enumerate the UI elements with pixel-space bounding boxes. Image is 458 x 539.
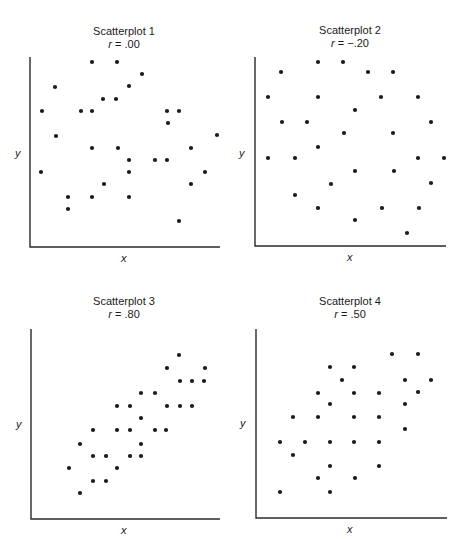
data-point xyxy=(352,391,356,395)
data-point xyxy=(190,379,194,383)
data-point xyxy=(278,490,282,494)
data-point xyxy=(203,170,207,174)
data-point xyxy=(316,95,320,99)
data-point xyxy=(352,440,356,444)
scatterplot-3 xyxy=(31,329,220,519)
data-point xyxy=(139,416,143,420)
data-point xyxy=(177,219,181,223)
data-point xyxy=(215,133,219,137)
data-point xyxy=(329,182,333,186)
axes xyxy=(256,329,447,518)
data-point xyxy=(366,70,370,74)
data-point xyxy=(165,109,169,113)
scatterplot-canvas xyxy=(0,0,458,539)
data-point xyxy=(316,145,320,149)
data-point xyxy=(429,181,433,185)
data-point xyxy=(128,454,132,458)
data-point xyxy=(115,466,119,470)
data-point xyxy=(340,378,344,382)
data-point xyxy=(352,415,356,419)
scatterplot-2-title: Scatterplot 2 xyxy=(250,24,450,37)
data-point xyxy=(139,442,143,446)
data-point xyxy=(140,72,144,76)
data-point xyxy=(153,391,157,395)
data-point xyxy=(291,453,295,457)
data-point xyxy=(177,109,181,113)
data-point xyxy=(403,402,407,406)
data-point xyxy=(66,195,70,199)
data-point xyxy=(442,156,446,160)
r-value: = .80 xyxy=(112,308,140,320)
r-value: = −.20 xyxy=(335,37,369,49)
data-point xyxy=(266,156,270,160)
data-point xyxy=(417,206,421,210)
data-point xyxy=(166,121,170,125)
data-point xyxy=(429,378,433,382)
data-point xyxy=(353,218,357,222)
r-value: = .50 xyxy=(338,308,366,320)
data-point xyxy=(190,404,194,408)
data-point xyxy=(377,440,381,444)
data-point xyxy=(391,70,395,74)
data-point xyxy=(90,109,94,113)
scatterplot-4-ylabel: y xyxy=(240,417,246,429)
scatterplot-3-xlabel: x xyxy=(121,524,127,536)
data-point xyxy=(293,193,297,197)
scatterplot-3-r: r = .80 xyxy=(24,308,224,321)
data-point xyxy=(316,391,320,395)
data-point xyxy=(379,95,383,99)
scatterplot-2-r: r = −.20 xyxy=(250,37,450,50)
data-point xyxy=(39,170,43,174)
data-point xyxy=(165,404,169,408)
data-point xyxy=(403,427,407,431)
data-point xyxy=(380,206,384,210)
data-point xyxy=(316,415,320,419)
data-point xyxy=(266,95,270,99)
data-point xyxy=(328,464,332,468)
data-point xyxy=(102,182,106,186)
data-point xyxy=(377,391,381,395)
data-point xyxy=(279,70,283,74)
data-point xyxy=(416,352,420,356)
data-point xyxy=(67,466,71,470)
data-point xyxy=(115,428,119,432)
data-point xyxy=(305,120,309,124)
data-point xyxy=(403,378,407,382)
data-point xyxy=(328,365,332,369)
data-point xyxy=(328,490,332,494)
data-point xyxy=(429,120,433,124)
data-point xyxy=(328,440,332,444)
scatterplot-4 xyxy=(256,329,447,518)
data-point xyxy=(293,156,297,160)
scatterplot-4-title: Scatterplot 4 xyxy=(250,295,450,308)
axes xyxy=(255,57,446,246)
scatterplot-4-r: r = .50 xyxy=(250,308,450,321)
data-point xyxy=(127,158,131,162)
data-point xyxy=(178,404,182,408)
data-point xyxy=(91,479,95,483)
scatterplot-2 xyxy=(255,57,446,246)
data-point xyxy=(164,428,168,432)
data-point xyxy=(416,156,420,160)
data-point xyxy=(90,60,94,64)
data-point xyxy=(416,390,420,394)
data-point xyxy=(127,84,131,88)
axes xyxy=(30,57,220,247)
data-point xyxy=(189,182,193,186)
scatterplot-3-title: Scatterplot 3 xyxy=(24,295,224,308)
data-point xyxy=(66,207,70,211)
data-point xyxy=(40,109,44,113)
data-point xyxy=(90,146,94,150)
data-point xyxy=(91,428,95,432)
data-point xyxy=(291,415,295,419)
data-point xyxy=(352,365,356,369)
data-point xyxy=(153,158,157,162)
scatterplot-2-xlabel: x xyxy=(347,251,353,263)
data-point xyxy=(202,379,206,383)
data-point xyxy=(280,120,284,124)
data-point xyxy=(377,464,381,468)
data-point xyxy=(278,440,282,444)
data-point xyxy=(353,169,357,173)
data-point xyxy=(391,131,395,135)
data-point xyxy=(127,170,131,174)
